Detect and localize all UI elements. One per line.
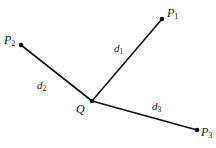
point-q-dot xyxy=(90,99,95,104)
label-p3: P3 xyxy=(200,125,212,140)
label-p2: P2 xyxy=(3,33,15,48)
label-p1: P1 xyxy=(166,6,178,21)
point-p1-dot xyxy=(160,17,165,22)
label-d1: d1 xyxy=(114,42,124,56)
segment-q-p1 xyxy=(92,19,162,101)
label-d3: d3 xyxy=(152,100,162,114)
point-p3-dot xyxy=(195,128,200,133)
segment-q-p2 xyxy=(21,45,92,101)
segment-q-p3 xyxy=(92,101,197,130)
facility-location-diagram: P1 P2 P3 Q d1 d2 d3 xyxy=(0,0,216,148)
point-p2-dot xyxy=(19,43,24,48)
label-d2: d2 xyxy=(37,79,47,93)
label-q: Q xyxy=(76,102,85,116)
